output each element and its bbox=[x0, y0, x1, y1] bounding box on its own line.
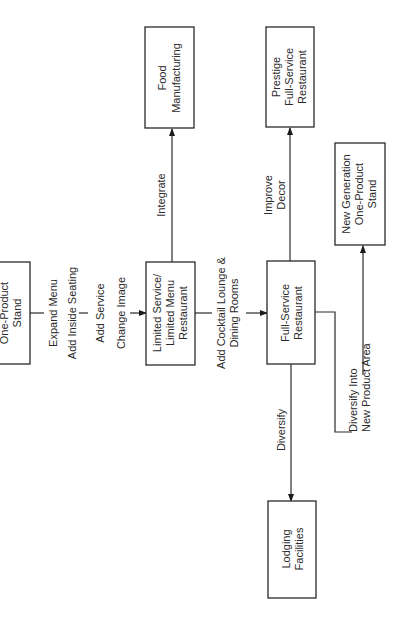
node-label-line2: Facilities bbox=[293, 527, 305, 570]
edge-label: Add Service bbox=[94, 283, 106, 342]
node-new-generation-one-product-stand: New Generation One-Product Stand bbox=[335, 143, 385, 245]
node-label-line2: Manufacturing bbox=[170, 43, 182, 113]
node-label-line2: Restaurant bbox=[292, 286, 304, 340]
node-label-line3: Restaurant bbox=[296, 50, 308, 104]
node-label-line1: Food bbox=[156, 65, 168, 90]
node-label-line1: Prestige bbox=[270, 57, 282, 97]
node-food-manufacturing: Food Manufacturing bbox=[145, 27, 194, 128]
edge-label: Improve bbox=[262, 175, 274, 215]
edge-label: Decor bbox=[275, 180, 287, 210]
edge-limited-to-food: Integrate bbox=[155, 129, 172, 262]
node-label-line2: One-Product bbox=[353, 163, 365, 225]
edge-limited-to-full: Add Cocktail Lounge & Dining Rooms bbox=[195, 256, 267, 369]
node-label-line1: New Generation bbox=[340, 154, 352, 234]
node-lodging-facilities: Lodging Facilities bbox=[268, 501, 316, 598]
node-label-line1: Limited Service/ bbox=[151, 273, 163, 352]
edge-label: Diversify bbox=[275, 408, 287, 451]
edge-full-to-prestige: Improve Decor bbox=[262, 128, 290, 261]
strategy-flow-diagram: One-Product Stand Expand Menu Add Inside… bbox=[0, 0, 396, 641]
edge-label: Add Cocktail Lounge & bbox=[215, 256, 227, 369]
node-prestige-full-service-restaurant: Prestige Full-Service Restaurant bbox=[266, 27, 314, 127]
edge-label: Integrate bbox=[155, 173, 167, 216]
node-label-line3: Stand bbox=[366, 180, 378, 209]
node-label-line1: Lodging bbox=[280, 529, 292, 568]
node-label-line2: Limited Menu bbox=[164, 280, 176, 346]
node-label-line2: Stand bbox=[11, 299, 23, 328]
edge-label: Dining Rooms bbox=[228, 278, 240, 348]
node-label-line1: One-Product bbox=[0, 282, 10, 344]
edge-stand-to-limited: Expand Menu Add Inside Seating Add Servi… bbox=[30, 267, 146, 359]
edge-full-to-lodging: Diversify bbox=[275, 364, 291, 501]
node-limited-service-restaurant: Limited Service/ Limited Menu Restaurant bbox=[146, 262, 195, 365]
edge-label: Add Inside Seating bbox=[66, 267, 78, 359]
edge-label: Diversify Into bbox=[347, 368, 359, 432]
node-label-line2: Full-Service bbox=[283, 48, 295, 106]
node-one-product-stand: One-Product Stand bbox=[0, 262, 30, 364]
edge-label: New Product Area bbox=[360, 342, 372, 432]
node-label-line1: Full-Service bbox=[279, 284, 291, 342]
node-label-line3: Restaurant bbox=[177, 286, 189, 340]
node-full-service-restaurant: Full-Service Restaurant bbox=[267, 261, 315, 364]
edge-label: Expand Menu bbox=[47, 279, 59, 347]
edge-label: Change Image bbox=[115, 277, 127, 349]
edge-full-to-new-generation: Diversify Into New Product Area bbox=[315, 246, 372, 432]
